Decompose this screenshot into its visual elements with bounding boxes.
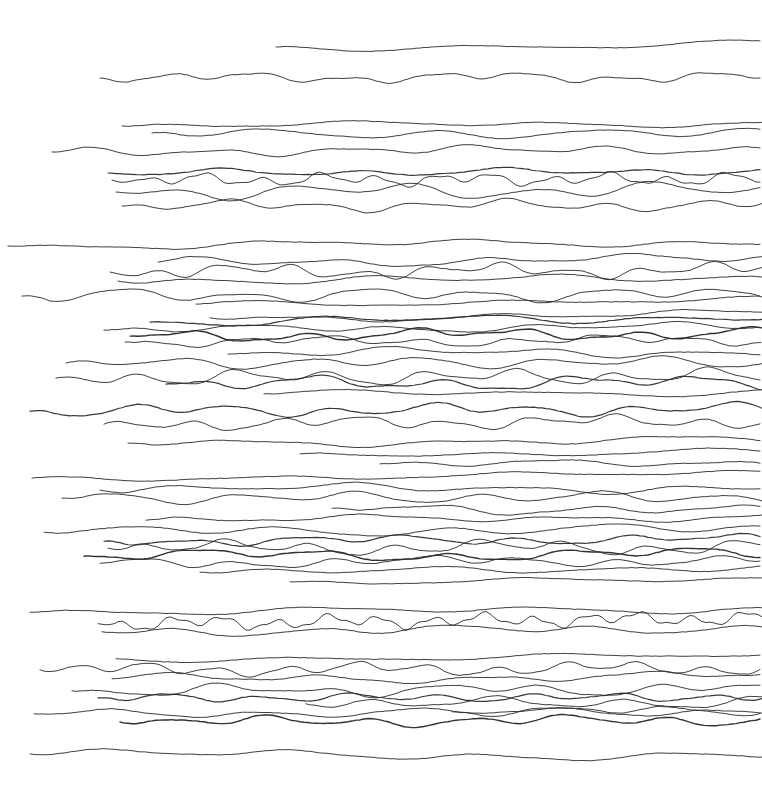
drawn-line: [40, 661, 760, 677]
drawn-line: [146, 514, 762, 522]
drawn-line: [104, 321, 760, 332]
drawn-line: [158, 253, 762, 266]
drawn-line: [56, 367, 760, 385]
drawn-line: [122, 121, 762, 128]
drawn-line: [62, 491, 762, 505]
drawn-line: [276, 40, 760, 51]
drawn-line: [290, 578, 762, 585]
drawn-line: [152, 128, 760, 138]
drawn-line: [22, 289, 762, 303]
drawn-line: [300, 448, 760, 456]
drawn-line: [34, 708, 762, 718]
drawn-line: [72, 683, 760, 698]
drawn-line: [108, 539, 760, 556]
drawn-line: [30, 607, 762, 615]
drawn-line: [196, 296, 760, 306]
drawn-line: [116, 181, 760, 201]
drawn-line: [122, 198, 762, 213]
drawn-line: [30, 749, 762, 761]
drawn-line: [102, 625, 762, 636]
drawn-line: [116, 653, 760, 662]
drawn-line: [264, 389, 760, 396]
drawn-line: [30, 401, 762, 417]
drawn-line: [100, 73, 760, 84]
drawn-line: [332, 505, 760, 515]
drawn-line: [128, 437, 760, 448]
drawn-line: [66, 356, 762, 370]
drawn-line: [52, 145, 760, 157]
drawn-line: [118, 274, 762, 284]
drawn-line: [104, 533, 760, 546]
drawn-line: [380, 460, 760, 467]
drawn-line: [104, 414, 760, 431]
drawn-line: [44, 524, 760, 536]
drawn-line: [452, 706, 760, 716]
drawn-line: [150, 315, 762, 326]
drawn-line: [100, 555, 760, 567]
drawn-line: [98, 693, 762, 702]
drawn-line: [228, 346, 760, 358]
drawn-line: [8, 239, 760, 249]
line-drawing-canvas: [0, 0, 762, 804]
line-drawing-svg: [0, 0, 762, 804]
drawn-line: [32, 470, 760, 481]
drawn-line: [112, 671, 760, 683]
drawn-line: [108, 167, 760, 175]
drawn-line: [100, 482, 760, 495]
